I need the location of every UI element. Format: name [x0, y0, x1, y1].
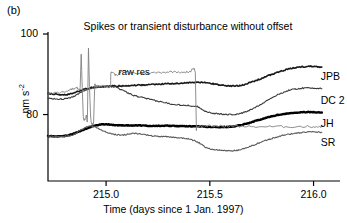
series-line-jh — [48, 112, 322, 137]
series-line-sr — [48, 126, 322, 151]
y-tick-label: 100 — [6, 27, 38, 39]
y-tick-label: 80 — [6, 108, 38, 120]
series-label-dc-2: DC 2 — [321, 94, 345, 106]
series-line-dc-2 — [48, 86, 322, 115]
x-tick-label: 216.0 — [291, 188, 337, 200]
x-tick-label: 215.5 — [187, 188, 233, 200]
x-tick-label: 215.0 — [83, 188, 129, 200]
annotation-raw-res: raw res — [119, 66, 150, 77]
series-label-sr: SR — [321, 136, 336, 148]
series-label-jh: JH — [321, 117, 334, 129]
series-label-jpb: JPB — [321, 70, 340, 82]
figure-panel-b: (b) Spikes or transient disturbance with… — [0, 0, 347, 223]
